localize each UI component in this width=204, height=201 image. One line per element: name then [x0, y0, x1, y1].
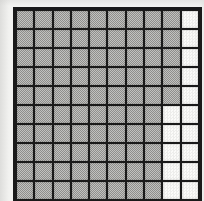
grid-cell: [89, 29, 107, 48]
grid-cell: [126, 162, 144, 181]
grid-cell: [162, 124, 180, 143]
grid-cell: [53, 162, 71, 181]
grid-cell: [53, 10, 71, 29]
grid-cell: [34, 29, 52, 48]
grid-cell: [107, 181, 125, 200]
grid-cell: [34, 181, 52, 200]
grid: [13, 7, 202, 201]
grid-cell: [181, 67, 199, 86]
grid-cell: [71, 162, 89, 181]
grid-cell: [162, 67, 180, 86]
grid-cell: [162, 29, 180, 48]
grid-cell: [126, 143, 144, 162]
grid-cell: [126, 124, 144, 143]
grid-cell: [162, 162, 180, 181]
grid-cell: [162, 143, 180, 162]
grid-cell: [126, 105, 144, 124]
grid-cell: [16, 181, 34, 200]
grid-cell: [16, 10, 34, 29]
grid-cell: [16, 105, 34, 124]
grid-cell: [144, 67, 162, 86]
grid-cell: [144, 105, 162, 124]
grid-cell: [107, 10, 125, 29]
grid-cell: [71, 105, 89, 124]
grid-cell: [16, 143, 34, 162]
grid-cell: [144, 181, 162, 200]
grid-cell: [107, 105, 125, 124]
grid-cell: [71, 124, 89, 143]
grid-cell: [181, 105, 199, 124]
grid-cell: [107, 124, 125, 143]
grid-cell: [34, 143, 52, 162]
grid-cell: [16, 29, 34, 48]
grid-cell: [126, 48, 144, 67]
grid-cell: [181, 48, 199, 67]
grid-cell: [144, 162, 162, 181]
grid-cell: [71, 181, 89, 200]
grid-cell: [126, 86, 144, 105]
grid-cell: [126, 181, 144, 200]
grid-cell: [71, 29, 89, 48]
grid-cell: [89, 48, 107, 67]
grid-cell: [126, 10, 144, 29]
grid-cell: [16, 48, 34, 67]
grid-cell: [53, 48, 71, 67]
grid-cell: [181, 124, 199, 143]
grid-cell: [89, 10, 107, 29]
grid-cell: [16, 124, 34, 143]
grid-cell: [71, 86, 89, 105]
grid-cell: [89, 124, 107, 143]
grid-cell: [181, 143, 199, 162]
grid-cell: [181, 86, 199, 105]
grid-cell: [71, 48, 89, 67]
grid-container: [13, 7, 202, 201]
grid-cell: [89, 67, 107, 86]
grid-cell: [89, 143, 107, 162]
grid-cell: [162, 181, 180, 200]
grid-cell: [107, 48, 125, 67]
grid-cell: [53, 105, 71, 124]
grid-cell: [34, 124, 52, 143]
grid-cell: [89, 86, 107, 105]
grid-cell: [89, 181, 107, 200]
grid-cell: [53, 181, 71, 200]
grid-cell: [144, 48, 162, 67]
grid-cell: [107, 86, 125, 105]
grid-cell: [89, 162, 107, 181]
grid-cell: [34, 48, 52, 67]
shaded-grid-figure: [0, 0, 204, 201]
grid-cell: [144, 124, 162, 143]
grid-cell: [34, 105, 52, 124]
grid-cell: [126, 29, 144, 48]
grid-cell: [34, 67, 52, 86]
grid-cell: [53, 143, 71, 162]
grid-cell: [162, 10, 180, 29]
grid-cell: [34, 162, 52, 181]
grid-cell: [53, 86, 71, 105]
grid-cell: [107, 29, 125, 48]
grid-cell: [89, 105, 107, 124]
grid-cell: [144, 143, 162, 162]
grid-cell: [162, 48, 180, 67]
grid-cell: [71, 10, 89, 29]
grid-cell: [126, 67, 144, 86]
grid-cell: [144, 29, 162, 48]
grid-cell: [71, 67, 89, 86]
grid-cell: [71, 143, 89, 162]
grid-cell: [181, 162, 199, 181]
grid-cell: [162, 86, 180, 105]
grid-cell: [181, 181, 199, 200]
grid-cell: [144, 86, 162, 105]
grid-cell: [53, 29, 71, 48]
grid-cell: [162, 105, 180, 124]
grid-cell: [34, 10, 52, 29]
grid-cell: [53, 67, 71, 86]
grid-cell: [144, 10, 162, 29]
grid-cell: [53, 124, 71, 143]
grid-cell: [107, 162, 125, 181]
grid-cell: [181, 10, 199, 29]
grid-cell: [16, 162, 34, 181]
grid-cell: [16, 67, 34, 86]
grid-cell: [107, 143, 125, 162]
grid-cell: [16, 86, 34, 105]
